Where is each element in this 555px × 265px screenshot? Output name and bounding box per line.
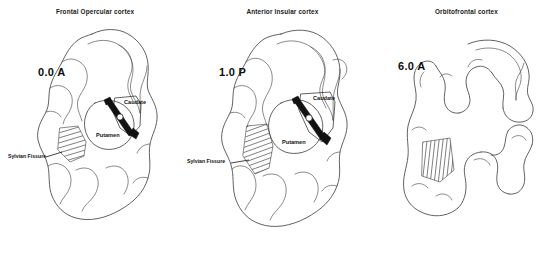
panel-orbitofrontal: Orbitofrontal cortex 6.0 A: [378, 0, 555, 265]
structure-label-putamen: Putamen: [96, 132, 120, 138]
panel-title: Orbitofrontal cortex: [378, 8, 555, 15]
panel-frontal-opercular: Frontal Opercular cortex 0.0 A: [0, 0, 190, 265]
brain-section-drawing: [185, 0, 380, 265]
brain-section-figure: Frontal Opercular cortex 0.0 A: [0, 0, 555, 265]
sylvian-fissure-label: Sylvian Fissure: [187, 158, 225, 164]
structure-label-putamen: Putamen: [282, 139, 306, 145]
structure-label-caudate: Caudate: [124, 99, 146, 105]
structure-label-caudate: Caudate: [313, 95, 335, 101]
ap-coordinate-label: 0.0 A: [38, 66, 65, 78]
electrode-track: [292, 96, 331, 145]
panel-anterior-insular: Anterior Insular cortex 1.0 P: [185, 0, 380, 265]
panel-title: Frontal Opercular cortex: [0, 8, 190, 15]
fissure-leader-line: [46, 152, 62, 157]
brain-section-drawing: [0, 0, 190, 265]
ap-coordinate-label: 6.0 A: [398, 60, 425, 72]
ap-coordinate-label: 1.0 P: [219, 66, 246, 78]
sylvian-fissure-label: Sylvian Fissure: [8, 153, 46, 159]
brain-section-drawing: [378, 0, 555, 265]
panel-title: Anterior Insular cortex: [185, 8, 380, 15]
